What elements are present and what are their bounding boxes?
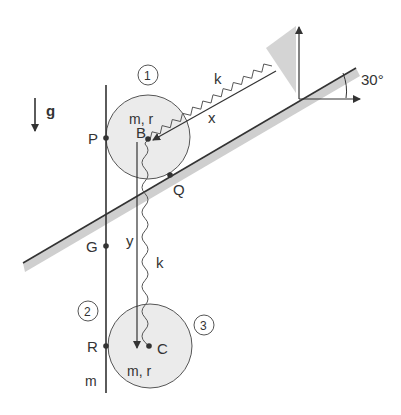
incline-surface [23, 68, 356, 263]
y-coordinate-label: y [126, 232, 134, 249]
body-2-number: 2 [84, 305, 91, 319]
point-Q-dot [167, 172, 173, 178]
spring-upper-label: k [214, 70, 222, 87]
body-1-number: 1 [144, 69, 151, 83]
point-P-dot [103, 135, 109, 141]
gravity-label: g [46, 102, 55, 119]
point-G-dot [103, 243, 109, 249]
point-R-label: R [87, 338, 98, 355]
point-C-dot [146, 343, 152, 349]
mechanics-diagram: 30° g 1 m, r 3 m, r 2 m P G R k x k y B … [0, 0, 401, 415]
point-B-dot [145, 136, 151, 142]
x-coordinate-label: x [208, 109, 216, 126]
point-C-label: C [157, 340, 168, 357]
body-3-number: 3 [200, 319, 207, 333]
disk-3-props: m, r [127, 363, 151, 379]
point-R-dot [103, 343, 109, 349]
point-P-label: P [88, 130, 98, 147]
point-Q-label: Q [173, 181, 185, 198]
spring-lower-label: k [156, 254, 164, 271]
point-B-label: B [136, 124, 146, 141]
angle-label: 30° [361, 71, 384, 88]
rod-mass-label: m [85, 373, 97, 389]
point-G-label: G [86, 238, 98, 255]
spring-anchor-wall [266, 26, 296, 93]
